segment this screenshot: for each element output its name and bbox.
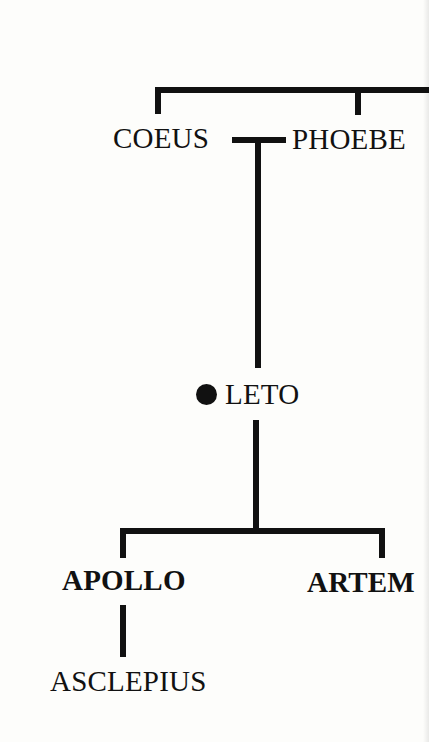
node-artemis: ARTEM bbox=[307, 568, 415, 597]
descent-line-leto bbox=[255, 137, 261, 368]
page-edge-shadow bbox=[423, 0, 429, 742]
top-sibling-bar bbox=[155, 87, 429, 93]
node-phoebe: PHOEBE bbox=[292, 125, 406, 154]
node-asclepius: ASCLEPIUS bbox=[50, 667, 207, 696]
leto-marker-icon bbox=[196, 384, 217, 405]
descent-line-asclepius bbox=[120, 605, 126, 657]
artemis-drop-line bbox=[379, 528, 385, 558]
children-bar bbox=[120, 528, 385, 534]
phoebe-drop-line bbox=[355, 87, 361, 115]
node-coeus: COEUS bbox=[113, 124, 209, 153]
node-leto: LETO bbox=[225, 380, 299, 409]
apollo-drop-line bbox=[120, 528, 126, 558]
coeus-drop-line bbox=[155, 87, 161, 114]
node-apollo: APOLLO bbox=[62, 566, 186, 595]
descent-line-children bbox=[253, 420, 259, 534]
